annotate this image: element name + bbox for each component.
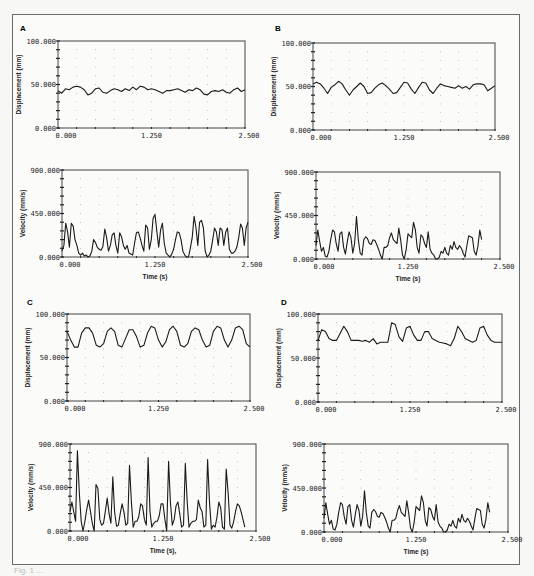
figure-canvas: A B C D 0.00050.000100.0000.0001.2502.50… xyxy=(0,0,534,576)
plot-panel-c-displacement: 0.00050.000100.0000.0001.2502.500Displac… xyxy=(24,311,265,414)
x-tick-label: 1.250 xyxy=(397,263,418,271)
y-axis-label: Velocity (mm/s) xyxy=(27,464,35,512)
y-tick-label: 50.000 xyxy=(286,83,311,91)
y-tick-label: 900.000 xyxy=(38,441,68,449)
plot-panel-a-velocity: 0.000450.000900.0000.0001.2502.500Veloci… xyxy=(19,167,263,282)
y-axis-label: Displacement (mm) xyxy=(270,57,278,117)
y-tick-label: 100.000 xyxy=(286,311,316,319)
data-trace xyxy=(313,81,495,95)
x-tick-label: 2.500 xyxy=(238,132,259,140)
y-tick-label: 0.000 xyxy=(44,398,65,406)
plot-panel-b-velocity: 0.000450.000900.0000.0001.2502.500Veloci… xyxy=(273,169,515,284)
y-tick-label: 0.000 xyxy=(295,399,316,407)
y-tick-label: 0.000 xyxy=(293,256,314,264)
y-axis-label: Displacement (mm) xyxy=(275,328,283,388)
x-tick-label: 1.250 xyxy=(152,535,173,543)
y-tick-label: 100.000 xyxy=(26,38,56,46)
x-tick-label: 0.000 xyxy=(55,132,76,140)
plot-panel-d-displacement: 0.00050.000100.0000.0001.2502.500Displac… xyxy=(275,311,517,415)
data-trace xyxy=(70,451,245,531)
data-trace xyxy=(318,323,502,346)
x-tick-label: 2.500 xyxy=(501,536,522,544)
x-tick-label: 2.500 xyxy=(241,261,262,269)
plot-panel-a-displacement: 0.00050.000100.0000.0001.2502.500Displac… xyxy=(15,38,260,141)
x-tick-label: 0.000 xyxy=(321,536,342,544)
panel-letter-d: D xyxy=(281,298,287,307)
y-tick-label: 450.000 xyxy=(284,212,314,220)
x-tick-label: 0.000 xyxy=(67,535,88,543)
y-tick-label: 450.000 xyxy=(292,485,322,493)
x-tick-label: 2.500 xyxy=(493,263,514,271)
x-axis-label: Time (s) xyxy=(143,273,168,281)
panel-letter-a: A xyxy=(20,24,26,33)
y-tick-label: 450.000 xyxy=(38,484,68,492)
x-axis-label: Time (s), xyxy=(150,547,177,555)
plot-panel-b-displacement: 0.00050.000100.0000.0001.2502.500Displac… xyxy=(270,40,510,143)
y-tick-label: 0.000 xyxy=(35,125,56,133)
y-tick-label: 100.000 xyxy=(281,40,311,48)
x-tick-label: 0.000 xyxy=(315,406,336,414)
x-tick-label: 2.500 xyxy=(495,406,516,414)
y-axis-label: Displacement (mm) xyxy=(24,328,32,388)
x-tick-label: 0.000 xyxy=(64,405,85,413)
y-axis-label: Velocity (mm/s) xyxy=(281,464,289,512)
x-axis-label: Time (s) xyxy=(396,275,421,283)
y-tick-label: 900.000 xyxy=(284,169,314,177)
y-tick-label: 100.000 xyxy=(35,311,65,319)
y-axis-label: Velocity (mm/s) xyxy=(273,192,281,240)
x-tick-label: 2.500 xyxy=(249,535,270,543)
y-tick-label: 900.000 xyxy=(30,167,60,175)
x-tick-label: 0.000 xyxy=(59,261,80,269)
x-tick-label: 1.250 xyxy=(141,132,162,140)
x-axis-label: Time (s) xyxy=(404,548,429,556)
figure-caption: Fig. 1 ... xyxy=(14,566,43,575)
data-trace xyxy=(67,326,250,347)
panel-letter-b: B xyxy=(275,24,281,33)
data-trace xyxy=(316,217,482,260)
y-tick-label: 50.000 xyxy=(291,355,316,363)
x-tick-label: 2.500 xyxy=(243,405,264,413)
x-tick-label: 1.250 xyxy=(393,134,414,142)
x-tick-label: 1.250 xyxy=(399,406,420,414)
y-tick-label: 0.000 xyxy=(290,127,311,135)
y-tick-label: 0.000 xyxy=(39,254,60,262)
x-tick-label: 0.000 xyxy=(313,263,334,271)
x-tick-label: 0.000 xyxy=(310,134,331,142)
x-tick-label: 2.500 xyxy=(488,134,509,142)
y-tick-label: 0.000 xyxy=(301,529,322,537)
plot-panel-c-velocity: 0.000450.000900.0000.0001.2502.500Veloci… xyxy=(27,441,271,556)
panel-letter-c: C xyxy=(27,298,33,307)
y-axis-label: Displacement (mm) xyxy=(15,55,23,115)
data-trace xyxy=(324,491,490,532)
y-tick-label: 0.000 xyxy=(47,528,68,536)
y-axis-label: Velocity (mm/s) xyxy=(19,190,27,238)
y-tick-label: 50.000 xyxy=(40,354,65,362)
x-tick-label: 1.250 xyxy=(148,405,169,413)
x-tick-label: 1.250 xyxy=(405,536,426,544)
y-tick-label: 900.000 xyxy=(292,441,322,449)
x-tick-label: 1.250 xyxy=(144,261,165,269)
y-tick-label: 50.000 xyxy=(31,81,56,89)
data-trace xyxy=(62,215,248,258)
y-tick-label: 450.000 xyxy=(30,210,60,218)
plot-panel-d-velocity: 0.000450.000900.0000.0001.2502.500Veloci… xyxy=(281,441,523,557)
